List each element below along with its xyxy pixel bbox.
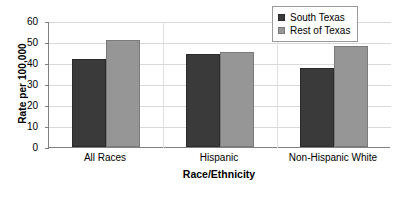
gridline [49, 43, 391, 44]
y-axis-tick-label: 40 [12, 59, 38, 69]
x-axis-category-label: All Races [45, 152, 165, 163]
y-axis-tick [45, 106, 49, 107]
y-axis-tick-label: 60 [12, 17, 38, 27]
bar-south-texas [186, 54, 220, 147]
bar-chart: Rate per 100,000 0102030405060 Race/Ethn… [0, 0, 397, 203]
y-axis-tick-label: 0 [12, 143, 38, 153]
legend-label-south-texas: South Texas [290, 12, 345, 23]
bar-rest-of-texas [220, 52, 254, 147]
y-axis-tick-label: 30 [12, 80, 38, 90]
bar-rest-of-texas [334, 46, 368, 147]
y-axis-tick [45, 127, 49, 128]
y-axis-tick [45, 22, 49, 23]
legend-item-south-texas: South Texas [278, 11, 350, 24]
legend-label-rest-of-texas: Rest of Texas [290, 25, 350, 36]
y-axis-tick-label: 10 [12, 122, 38, 132]
y-axis-tick [45, 148, 49, 149]
bar-rest-of-texas [106, 40, 140, 147]
x-axis-title: Race/Ethnicity [48, 168, 390, 180]
y-axis-tick [45, 43, 49, 44]
y-axis-tick [45, 64, 49, 65]
legend-swatch-icon-south-texas [278, 14, 285, 21]
legend-item-rest-of-texas: Rest of Texas [278, 24, 350, 37]
y-axis-tick [45, 85, 49, 86]
category-separator [163, 22, 164, 148]
bar-south-texas [300, 68, 334, 147]
bar-south-texas [72, 59, 106, 147]
x-axis-category-label: Non-Hispanic White [273, 152, 393, 163]
x-axis-category-label: Hispanic [159, 152, 279, 163]
y-axis-tick-label: 50 [12, 38, 38, 48]
legend-swatch-icon-rest-of-texas [278, 27, 285, 34]
legend: South Texas Rest of Texas [272, 6, 358, 42]
y-axis-tick-label: 20 [12, 101, 38, 111]
